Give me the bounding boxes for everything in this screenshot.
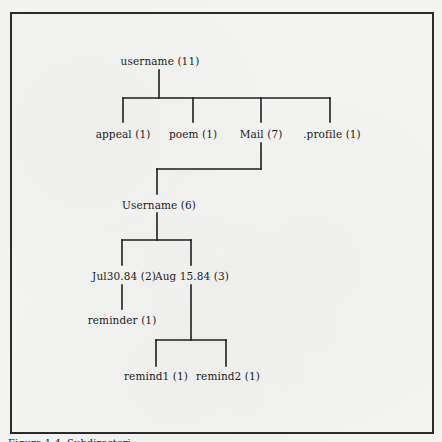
node-jul30-84: Jul30.84 (2) [92,270,156,282]
figure-page: username (11) appeal (1) poem (1) Mail (… [0,0,442,442]
node-poem: poem (1) [169,128,217,140]
node-mail: Mail (7) [240,128,283,140]
node-username-sub: Username (6) [122,199,196,211]
node-aug-15-84: Aug 15.84 (3) [155,270,229,282]
node-root-username: username (11) [121,55,200,67]
figure-caption: Figure 1.4. Subdirectori [8,437,131,442]
node-reminder: reminder (1) [88,314,157,326]
node-remind2: remind2 (1) [196,370,260,382]
node-appeal: appeal (1) [96,128,151,140]
node-profile: .profile (1) [303,128,361,140]
node-remind1: remind1 (1) [124,370,188,382]
